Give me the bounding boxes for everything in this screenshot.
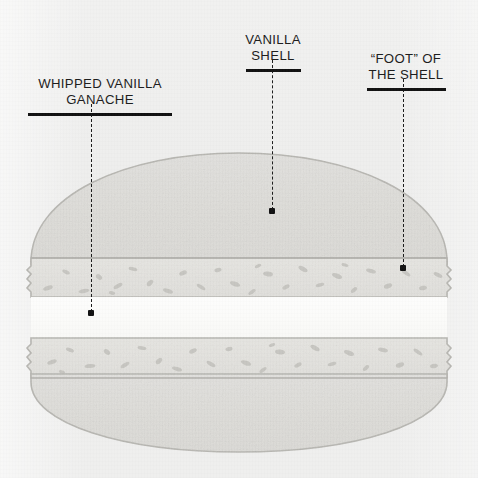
label-whipped-vanilla-ganache: WHIPPED VANILLA GANACHE xyxy=(18,59,182,132)
leader-dot-ganache xyxy=(88,310,94,316)
label-rule-foot-of-the-shell xyxy=(367,88,446,91)
label-rule-vanilla-shell xyxy=(246,69,301,72)
label-text-vanilla-shell: VANILLA SHELL xyxy=(245,32,301,64)
label-vanilla-shell: VANILLA SHELL xyxy=(218,15,328,88)
diagram-canvas: WHIPPED VANILLA GANACHE VANILLA SHELL “F… xyxy=(0,0,478,478)
leader-line-ganache xyxy=(91,104,92,312)
leader-line-foot xyxy=(403,79,404,267)
leader-dot-vanilla-shell xyxy=(269,208,275,214)
label-rule-whipped-vanilla-ganache xyxy=(28,113,172,116)
label-text-whipped-vanilla-ganache: WHIPPED VANILLA GANACHE xyxy=(38,76,162,108)
leader-dot-foot xyxy=(400,265,406,271)
label-foot-of-the-shell: “FOOT” OF THE SHELL xyxy=(348,34,464,107)
bottom-shell-foot xyxy=(27,338,451,378)
top-shell-dome xyxy=(31,153,447,264)
label-text-foot-of-the-shell: “FOOT” OF THE SHELL xyxy=(369,51,444,83)
bottom-shell-dome xyxy=(31,374,447,452)
ganache-layer xyxy=(31,297,447,338)
